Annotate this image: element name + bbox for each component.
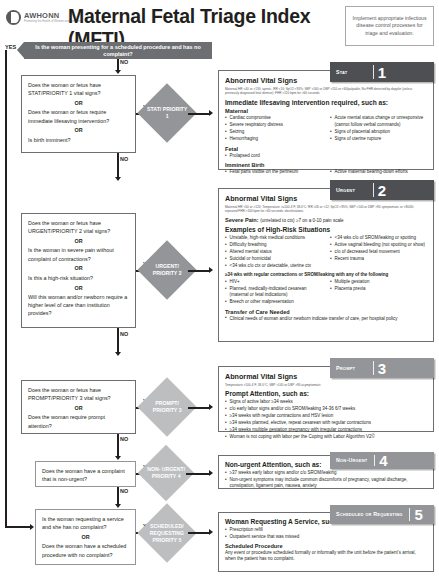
panel-urgent-transfer-heading: Transfer of Care Needed	[225, 309, 427, 315]
list-item: ≥34 weeks with regular contractions and …	[225, 413, 427, 419]
decision-stat-line-3: Is birth imminent?	[28, 136, 129, 144]
list-item: Non-urgent symptoms may include common d…	[225, 477, 427, 490]
outcome-line-scheduled	[188, 532, 210, 534]
decision-urgent-line-2: Is the woman in severe pain without comp…	[28, 246, 129, 262]
list-item: Recent trauma	[330, 256, 427, 262]
panel-stat-maternal-right: Acute mental status change or unresponsi…	[330, 115, 427, 143]
priority-tab-stat-number: 1	[376, 62, 391, 82]
list-item: Unstable, high-risk medical conditions	[225, 235, 322, 241]
panel-scheduled-list: Prescription refill Outpatient service t…	[225, 527, 427, 540]
priority-tab-prompt-label: Prompt	[330, 358, 370, 378]
yes-return-rail-vertical	[5, 50, 7, 528]
list-item: Active vaginal bleeding (not spotting or…	[330, 242, 427, 248]
outcome-label-scheduled: SCHEDULED/ REQUESTING PRIORITY 5	[146, 523, 188, 543]
list-item: Active maternal bearing-down efforts	[330, 169, 427, 175]
priority-tab-stat-label: Stat	[330, 62, 370, 82]
list-item: Acute mental status change or unresponsi…	[330, 115, 427, 128]
outcome-arrow-stat	[209, 110, 213, 116]
priority-tab-urgent: Urgent 2	[330, 180, 434, 200]
panel-stat: Abnormal Vital Signs Maternal HR <40 or …	[218, 70, 434, 170]
list-item: Signs of active labor ≥34 weeks	[225, 399, 427, 405]
no-label-2: NO	[120, 331, 128, 337]
panel-stat-maternal-left: Cardiac compromise Severe respiratory di…	[225, 115, 322, 143]
panel-urgent-section-heading: Examples of High-Risk Situations	[225, 226, 427, 233]
priority-tab-prompt-number: 3	[376, 358, 391, 378]
outcome-line-stat	[188, 113, 210, 115]
list-item: Severe respiratory distress	[225, 122, 322, 128]
panel-urgent-note-right: Multiple gestation Placenta previa	[330, 279, 427, 306]
list-item: Difficulty breathing	[225, 242, 322, 248]
priority-tab-divider	[373, 361, 374, 375]
panel-stat-vital-detail: Maternal HR <40 or >130; apneic, RR <10;…	[225, 87, 427, 96]
decision-box-stat: Does the woman or fetus have STAT/PRIORI…	[21, 75, 136, 153]
panel-nonurgent-list: ≥37 weeks early labor signs and/or c/o S…	[225, 470, 427, 490]
no-label-4: NO	[120, 488, 128, 494]
decision-box-nonurgent: Does the woman have a complaint that is …	[35, 461, 136, 487]
panel-urgent-left: Unstable, high-risk medical conditions D…	[225, 235, 322, 270]
priority-tab-divider	[373, 65, 374, 79]
flow-arrow-top	[115, 70, 121, 74]
panel-urgent-severe-pain-text: (unrelated to ctx) ≥7 on a 0-10 pain sca…	[260, 218, 343, 223]
outcome-label-prompt: PROMPT/ PRIORITY 3	[146, 400, 188, 414]
list-item: ≥34 weeks multiple gestation pregnancy w…	[225, 427, 427, 433]
decision-urgent-line-4: Will this woman and/or newborn require a…	[28, 293, 129, 318]
priority-tab-scheduled-label: Scheduled or Requesting	[330, 505, 407, 524]
decision-box-scheduled: Is the woman requesting a service and sh…	[35, 509, 136, 565]
outcome-arrow-prompt	[209, 404, 213, 410]
priority-tab-divider	[373, 183, 374, 197]
panel-urgent-lists: Unstable, high-risk medical conditions D…	[225, 235, 427, 270]
priority-tab-nonurgent: Non-Urgent 4	[330, 452, 434, 469]
priority-tab-urgent-label: Urgent	[330, 180, 370, 200]
no-arrow-urgent	[115, 352, 121, 356]
decision-stat-or-1: OR	[28, 100, 129, 106]
flow-line-top	[117, 59, 119, 70]
panel-stat-birth-lists: Fetal parts visible on the perineum Acti…	[225, 169, 427, 176]
list-item: <34 wks c/o of SROM/leaking or spotting	[330, 235, 427, 241]
list-item: Placenta previa	[330, 286, 427, 292]
panel-stat-maternal-lists: Cardiac compromise Severe respiratory di…	[225, 115, 427, 143]
no-line-nonurgent	[117, 487, 119, 504]
panel-scheduled-sub-heading: Scheduled Procedure	[225, 543, 427, 549]
list-item: Seizing	[225, 129, 322, 135]
decision-urgent-or-3: OR	[28, 285, 129, 291]
panel-urgent-note: ≥34 wks with regular contractions or SRO…	[225, 272, 427, 277]
infection-control-text: Implement appropriate infectious disease…	[350, 15, 429, 37]
panel-urgent-severe-pain: Severe Pain: (unrelated to ctx) ≥7 on a …	[225, 217, 427, 223]
decision-urgent-line-3: Is this a high-risk situation?	[28, 274, 129, 282]
priority-tab-scheduled: Scheduled or Requesting 5	[330, 505, 434, 524]
outcome-label-urgent: URGENT/ PRIORITY 2	[146, 263, 188, 277]
panel-stat-group-fetal-title: Fetal	[225, 146, 427, 152]
outcome-line-urgent	[188, 270, 210, 272]
decision-urgent-or-1: OR	[28, 238, 129, 244]
panel-urgent-vital-detail: Maternal HR <50 or >120; Temperature >=1…	[225, 205, 427, 214]
list-item: Hemorrhaging	[225, 136, 322, 142]
no-label-3: NO	[120, 436, 128, 442]
panel-stat-birth-left: Fetal parts visible on the perineum	[225, 169, 322, 176]
decision-scheduled-or-1: OR	[42, 534, 129, 540]
no-arrow-stat	[115, 177, 121, 181]
panel-urgent: Abnormal Vital Signs Maternal HR <50 or …	[218, 188, 434, 342]
list-item: ≥37 weeks early labor signs and/or c/o S…	[225, 470, 427, 476]
list-item: Clinical needs of woman and/or newborn i…	[225, 316, 427, 322]
list-item: <34 wks c/o ctx or detectable, uterine c…	[225, 263, 322, 269]
panel-urgent-right: <34 wks c/o of SROM/leaking or spotting …	[330, 235, 427, 270]
list-item: Prolapsed cord	[225, 153, 427, 159]
panel-stat-birth-right: Active maternal bearing-down efforts	[330, 169, 427, 176]
priority-tab-prompt: Prompt 3	[330, 358, 434, 378]
panel-scheduled-sub-text: Any event or procedure scheduled formall…	[225, 550, 427, 563]
outcome-line-prompt	[188, 407, 210, 409]
panel-stat-group-birth-title: Imminent Birth	[225, 162, 427, 168]
outcome-arrow-scheduled	[209, 529, 213, 535]
panel-prompt-list: Signs of active labor ≥34 weeks c/o earl…	[225, 399, 427, 440]
panel-urgent-transfer-list: Clinical needs of woman and/or newborn i…	[225, 316, 427, 322]
priority-tab-nonurgent-number: 4	[377, 452, 392, 469]
panel-urgent-note-left: HIV+ Planned, medically-indicated cesare…	[225, 279, 322, 306]
outcome-arrow-nonurgent	[209, 470, 213, 476]
list-item: Fetal parts visible on the perineum	[225, 169, 322, 175]
priority-tab-nonurgent-label: Non-Urgent	[330, 452, 371, 469]
decision-prompt-line-1: Does the woman or fetus have PROMPT/PRIO…	[28, 386, 129, 402]
priority-tab-scheduled-number: 5	[413, 505, 428, 524]
yes-return-arrow	[30, 524, 34, 530]
list-item: Cardiac compromise	[225, 115, 322, 121]
no-line-stat	[117, 153, 119, 177]
